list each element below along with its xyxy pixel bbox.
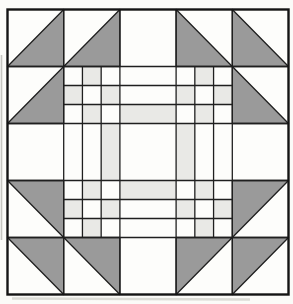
- ninepatch-light-square-r3-c1: [101, 200, 120, 219]
- ninepatch-light-square-r1-c3: [195, 105, 214, 124]
- ninepatch-light-square-r3-c3: [176, 200, 195, 219]
- quilt-block-diagram: [0, 0, 293, 304]
- ninepatch-light-square-r1-c1: [82, 67, 101, 86]
- rail-light-strip-r3-c2: [120, 181, 176, 200]
- ninepatch-light-square-r3-c1: [82, 181, 101, 200]
- ninepatch-light-square-r3-c3: [195, 181, 214, 200]
- ninepatch-light-square-r3-c1: [64, 200, 83, 219]
- rail-light-strip-r2-c3: [176, 124, 195, 181]
- ninepatch-light-square-r1-c3: [195, 67, 214, 86]
- ninepatch-light-square-r1-c1: [64, 86, 83, 105]
- ninepatch-light-square-r1-c3: [214, 86, 233, 105]
- ninepatch-light-square-r1-c3: [176, 86, 195, 105]
- ninepatch-light-square-r3-c1: [82, 219, 101, 238]
- scanned-page: [0, 0, 293, 304]
- scan-artifact-bottom-shadow: [12, 299, 250, 300]
- ninepatch-light-square-r3-c3: [195, 219, 214, 238]
- ninepatch-light-square-r3-c3: [214, 200, 233, 219]
- ninepatch-light-square-r1-c1: [101, 86, 120, 105]
- rail-light-strip-r1-c2: [120, 105, 176, 124]
- ninepatch-light-square-r1-c1: [82, 105, 101, 124]
- rail-light-strip-r2-c1: [101, 124, 120, 181]
